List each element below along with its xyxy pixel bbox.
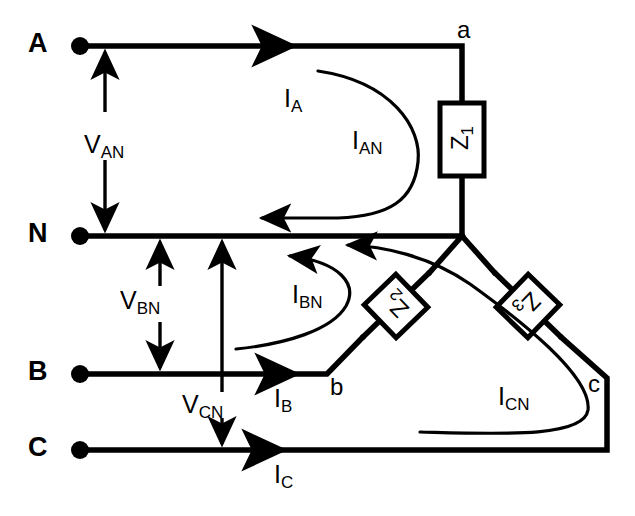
phase-current-curve-icn: [348, 245, 588, 433]
voltage-label-van-sub: AN: [101, 143, 125, 162]
current-label-ic: IC: [274, 462, 293, 487]
voltage-label-vcn: VCN: [182, 392, 223, 417]
node-label-c: c: [588, 372, 600, 396]
circuit-schematic-svg: [0, 0, 635, 516]
voltage-label-vbn-sub: BN: [137, 299, 161, 318]
wye-neutral-point-leads: [430, 176, 494, 272]
voltage-label-van: VAN: [84, 132, 124, 157]
current-label-ian-sub: AN: [359, 139, 383, 158]
current-label-icn-sub: CN: [505, 395, 530, 414]
terminal-dot-c: [71, 441, 89, 459]
current-label-ia-text: I: [284, 84, 291, 112]
node-label-b: b: [330, 375, 343, 399]
current-label-ib: IB: [274, 386, 292, 411]
voltage-label-vbn: VBN: [120, 288, 160, 313]
terminal-label-A: A: [28, 30, 48, 57]
circuit-diagram-canvas: A N B C a b c Z1 Z2 Z3 VAN VBN VCN IA IB…: [0, 0, 635, 516]
current-label-ia: IA: [284, 86, 302, 111]
current-label-icn: ICN: [498, 384, 530, 409]
terminal-label-N: N: [28, 220, 48, 247]
current-label-ic-text: I: [274, 460, 281, 488]
current-label-ian: IAN: [352, 128, 383, 153]
impedance-label-z1-text: Z: [446, 135, 473, 150]
terminal-dot-b: [71, 365, 89, 383]
terminal-label-B: B: [28, 358, 48, 385]
terminal-dot-n: [71, 227, 89, 245]
node-label-a: a: [457, 18, 470, 42]
terminal-label-C: C: [28, 434, 48, 461]
current-label-ibn-sub: BN: [299, 293, 323, 312]
terminal-dot-a: [71, 37, 89, 55]
impedance-label-z1-sub: 1: [458, 126, 477, 135]
current-label-icn-text: I: [498, 382, 505, 410]
voltage-label-vcn-sub: CN: [199, 403, 224, 422]
voltage-label-van-text: V: [84, 130, 101, 158]
current-label-ia-sub: A: [291, 97, 302, 116]
current-label-ib-sub: B: [281, 397, 292, 416]
current-label-ibn-text: I: [292, 280, 299, 308]
current-label-ibn: IBN: [292, 282, 323, 307]
phase-a-conductor: [80, 46, 462, 103]
current-label-ib-text: I: [274, 384, 281, 412]
current-label-ian-text: I: [352, 126, 359, 154]
impedance-label-z1: Z1: [448, 126, 472, 150]
voltage-label-vcn-text: V: [182, 390, 199, 418]
voltage-label-vbn-text: V: [120, 286, 137, 314]
current-label-ic-sub: C: [281, 473, 293, 492]
